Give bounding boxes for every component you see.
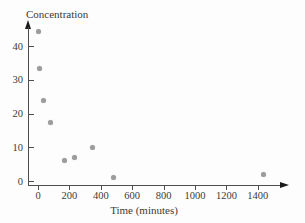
x-tick-label: 800 — [147, 190, 181, 201]
y-tick-label: 30 — [2, 73, 23, 86]
x-tick-label: 0 — [21, 190, 55, 201]
y-axis-line — [28, 27, 29, 185]
scatter-plot: Concentration 01020304002004006008001000… — [0, 0, 305, 223]
data-point — [62, 158, 67, 163]
y-tick-label: 40 — [2, 40, 23, 53]
y-tick — [28, 114, 34, 115]
y-tick — [28, 46, 34, 47]
x-tick-label: 1400 — [241, 190, 275, 201]
x-axis-arrowhead — [280, 182, 289, 188]
x-tick-label: 1000 — [178, 190, 212, 201]
x-tick-label: 200 — [52, 190, 86, 201]
data-point — [41, 98, 46, 103]
x-tick-label: 400 — [84, 190, 118, 201]
x-tick-label: 1200 — [209, 190, 243, 201]
data-point — [72, 155, 77, 160]
y-tick-label: 10 — [2, 141, 23, 154]
data-point — [37, 66, 42, 71]
y-tick — [28, 147, 34, 148]
data-point — [36, 29, 41, 34]
x-tick-label: 600 — [115, 190, 149, 201]
y-tick-label: 20 — [2, 107, 23, 120]
y-tick-label: 0 — [2, 175, 23, 188]
y-tick — [28, 181, 34, 182]
data-point — [261, 172, 266, 177]
data-point — [111, 175, 116, 180]
data-point — [90, 145, 95, 150]
x-axis-line — [28, 185, 281, 186]
x-axis-title: Time (minutes) — [84, 204, 204, 216]
data-point — [48, 120, 53, 125]
y-tick — [28, 80, 34, 81]
y-axis-title: Concentration — [26, 8, 88, 20]
